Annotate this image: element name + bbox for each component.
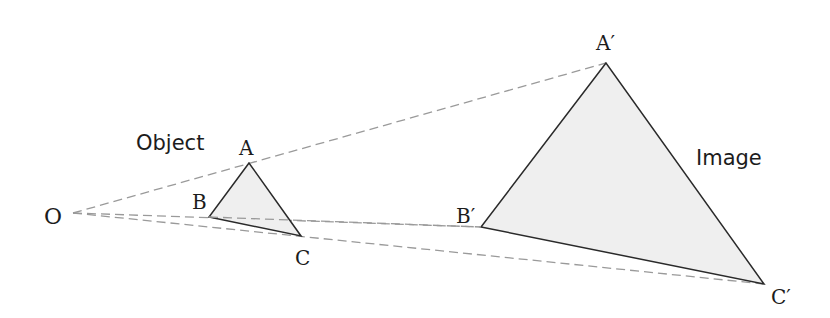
image-caption: Image [696,146,762,170]
object-caption: Object [136,131,204,155]
vertex-label-a: A [238,136,254,160]
diagram-canvas: O Object A B C A′ B′ C′ Image [0,0,830,318]
vertex-label-a-prime: A′ [595,31,615,55]
vertex-label-b: B [192,190,207,214]
image-triangle [481,63,764,284]
object-triangle [209,163,301,236]
homothety-diagram: O Object A B C A′ B′ C′ Image [0,0,830,318]
vertex-label-c-prime: C′ [771,285,791,309]
vertex-label-c: C [295,246,310,270]
vertex-label-b-prime: B′ [456,204,476,228]
center-label-o: O [44,204,62,229]
